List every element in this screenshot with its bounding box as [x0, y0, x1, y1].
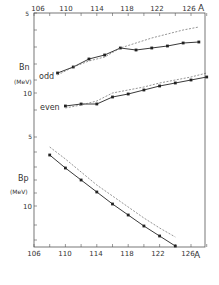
- x-tick-label: 118: [120, 250, 133, 258]
- data-point-marker: [95, 191, 98, 194]
- series-label-odd: odd: [39, 72, 54, 81]
- x-tick-label: 114: [90, 5, 104, 13]
- y-tick-label: 10: [23, 90, 32, 98]
- data-point-marker: [111, 96, 114, 99]
- data-point-marker: [174, 82, 177, 85]
- data-point-marker: [150, 47, 153, 50]
- data-point-marker: [166, 45, 169, 48]
- x-tick-label: 122: [151, 250, 164, 258]
- data-point-marker: [174, 245, 177, 248]
- data-point-marker: [64, 167, 67, 170]
- y-axis-title-bp: Bp: [18, 174, 29, 183]
- odd-line: [58, 42, 199, 73]
- data-point-marker: [95, 103, 98, 106]
- data-point-marker: [143, 89, 146, 92]
- odd-calc-line: [58, 27, 199, 75]
- y-axis-title-bn: Bn: [19, 63, 30, 72]
- x-axis-title-bottom: A: [194, 250, 201, 260]
- y-axis-unit-upper: (MeV): [14, 78, 32, 85]
- even-calc-line: [65, 73, 206, 108]
- x-tick-label: 110: [59, 5, 72, 13]
- data-point-marker: [190, 79, 193, 82]
- x-tick-label: 110: [58, 250, 71, 258]
- x-tick-label: 106: [27, 250, 41, 258]
- data-point-marker: [205, 76, 208, 79]
- data-point-marker: [88, 58, 91, 61]
- Bp-exp-line: [50, 155, 176, 246]
- data-point-marker: [182, 42, 185, 45]
- data-point-marker: [80, 179, 83, 182]
- x-tick-label: 118: [120, 5, 133, 13]
- data-point-marker: [48, 154, 51, 157]
- top-x-axis-labels: 106 110 114 118 122 126: [31, 5, 196, 13]
- data-point-marker: [197, 41, 200, 44]
- data-point-marker: [127, 214, 130, 217]
- even-line: [65, 77, 206, 106]
- y-tick-label: 5: [25, 10, 29, 17]
- data-point-marker: [158, 85, 161, 88]
- nuclear-binding-energy-chart: 106 110 114 118 122 126 A 106 110 114 11…: [0, 0, 219, 285]
- y-tick-label: 10: [23, 203, 32, 211]
- data-point-marker: [158, 235, 161, 238]
- y-axis-unit-lower: (MeV): [10, 188, 28, 195]
- data-point-marker: [103, 54, 106, 57]
- y-tick-label: 5: [28, 133, 32, 140]
- series-label-even: even: [40, 103, 60, 112]
- data-point-marker: [119, 47, 122, 50]
- x-tick-label: 114: [89, 250, 103, 258]
- bottom-x-axis-labels: 106 110 114 118 122 126: [27, 250, 195, 258]
- data-point-marker: [56, 72, 59, 75]
- data-point-marker: [127, 93, 130, 96]
- data-point-marker: [135, 49, 138, 52]
- data-point-marker: [111, 203, 114, 206]
- x-axis-title-top: A: [198, 3, 205, 13]
- data-point-marker: [143, 225, 146, 228]
- data-point-marker: [64, 105, 67, 108]
- x-tick-label: 122: [150, 5, 163, 13]
- series-group: [48, 27, 208, 247]
- x-tick-label: 126: [182, 5, 196, 13]
- x-tick-label: 106: [31, 5, 45, 13]
- Bp-calc-line: [50, 147, 176, 237]
